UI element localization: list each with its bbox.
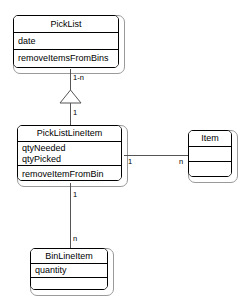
class-attributes-compartment: quantity [31,264,107,278]
class-inner-body: PickList date removeItemsFromBins [13,15,119,68]
class-name: PickList [50,19,81,30]
class-attributes-compartment: qtyNeeded qtyPicked [18,142,121,166]
class-attributes-compartment: date [14,33,118,50]
class-operations-compartment: removeItemFromBin [18,166,121,181]
class-name-compartment: BinLineItem [31,249,107,264]
class-box-binlineitem[interactable]: BinLineItem quantity [30,248,114,296]
class-inner-body: BinLineItem quantity [30,248,108,290]
multiplicity-picklist-side: 1-n [73,73,84,82]
class-operations-compartment [31,278,107,290]
class-attribute: quantity [35,265,67,276]
class-name-compartment: PickListLineItem [18,126,121,142]
class-box-picklist[interactable]: PickList date removeItemsFromBins [13,15,125,74]
class-attribute: date [18,36,36,47]
class-operation: removeItemFromBin [22,169,104,180]
class-name: PickListLineItem [37,128,103,139]
class-inner-body: PickListLineItem qtyNeeded qtyPicked rem… [17,125,122,181]
class-name-compartment: Item [189,131,231,147]
class-operation: removeItemsFromBins [18,53,109,64]
uml-class-diagram: PickList date removeItemsFromBins 1-n 1 … [0,0,245,305]
class-attribute: qtyNeeded [22,143,121,154]
connector-picklistlineitem-binlineitem [70,183,71,249]
class-name: BinLineItem [45,251,93,262]
connector-picklist-aggregation-lower [70,103,71,125]
multiplicity-picklistlineitem-item-side: 1 [128,157,132,166]
class-operations-compartment [189,162,231,177]
class-box-item[interactable]: Item [188,130,238,183]
connector-picklist-aggregation-upper [70,69,71,90]
class-box-picklistlineitem[interactable]: PickListLineItem qtyNeeded qtyPicked rem… [17,125,128,187]
multiplicity-picklistlineitem-bin-side: 1 [73,190,77,199]
multiplicity-binlineitem-side: n [73,234,77,243]
aggregation-triangle-icon [59,89,82,104]
class-operations-compartment: removeItemsFromBins [14,50,118,67]
class-attribute: qtyPicked [22,154,121,165]
class-inner-body: Item [188,130,232,177]
class-name-compartment: PickList [14,16,118,33]
multiplicity-picklistlineitem-parent-side: 1 [73,108,77,117]
multiplicity-item-side: n [179,157,183,166]
class-attributes-compartment [189,147,231,162]
connector-picklistlineitem-item [124,155,190,156]
class-name: Item [201,133,219,144]
